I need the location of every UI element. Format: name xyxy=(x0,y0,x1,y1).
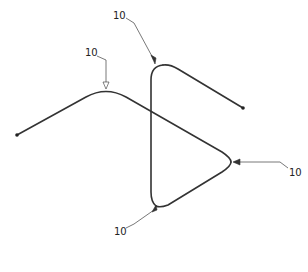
arrowhead-upper-left-icon xyxy=(103,82,109,89)
leader-right xyxy=(234,162,288,168)
arrowhead-top-icon xyxy=(151,55,156,64)
leader-lines xyxy=(97,18,288,228)
leader-upper-left xyxy=(97,56,106,86)
arched-lead-segment xyxy=(17,92,231,163)
reference-label-top: 10 xyxy=(113,10,126,21)
reference-label-upper-left: 10 xyxy=(85,47,98,58)
reference-label-bottom: 10 xyxy=(114,226,127,237)
leader-top xyxy=(126,18,154,60)
arrowhead-right-icon xyxy=(233,159,240,165)
diagram-canvas: 10 10 10 10 xyxy=(0,0,308,272)
elongate-element xyxy=(17,65,243,207)
reference-label-right: 10 xyxy=(289,167,302,178)
leader-bottom xyxy=(126,210,154,228)
arrowhead-bottom-icon xyxy=(152,205,157,212)
triangle-lower-edge xyxy=(156,162,231,207)
arrowheads xyxy=(103,55,240,212)
right-endpoint-dot xyxy=(241,106,245,110)
trailing-lead-segment xyxy=(163,65,243,108)
loop-vertical-edge xyxy=(151,65,163,206)
left-endpoint-dot xyxy=(15,133,19,137)
